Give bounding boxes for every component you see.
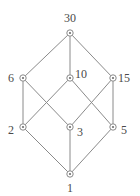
lattice-node[interactable] xyxy=(67,124,73,130)
lattice-edge xyxy=(23,127,70,174)
lattice-node[interactable] xyxy=(20,75,26,81)
lattice-node[interactable] xyxy=(110,75,116,81)
node-marker-dot xyxy=(69,32,71,34)
node-marker-dot xyxy=(69,126,71,128)
node-label: 15 xyxy=(118,72,130,84)
edges-group xyxy=(23,33,113,174)
lattice-node[interactable] xyxy=(67,171,73,177)
lattice-node[interactable] xyxy=(20,124,26,130)
node-marker-dot xyxy=(69,173,71,175)
node-marker-dot xyxy=(22,77,24,79)
node-label: 2 xyxy=(8,124,14,136)
node-label: 1 xyxy=(67,182,73,194)
nodes-group xyxy=(20,30,116,177)
node-label: 10 xyxy=(75,68,87,80)
node-marker-dot xyxy=(112,77,114,79)
lattice-node[interactable] xyxy=(67,75,73,81)
lattice-edge xyxy=(23,33,70,78)
node-marker-dot xyxy=(22,126,24,128)
lattice-graph-canvas xyxy=(0,0,140,196)
node-label: 5 xyxy=(121,124,127,136)
node-label: 6 xyxy=(8,72,14,84)
lattice-node[interactable] xyxy=(110,124,116,130)
node-marker-dot xyxy=(69,77,71,79)
node-label: 30 xyxy=(64,12,76,24)
lattice-node[interactable] xyxy=(67,30,73,36)
node-marker-dot xyxy=(112,126,114,128)
node-label: 3 xyxy=(77,126,83,138)
hasse-diagram-figure: 30610152351 xyxy=(0,0,140,196)
